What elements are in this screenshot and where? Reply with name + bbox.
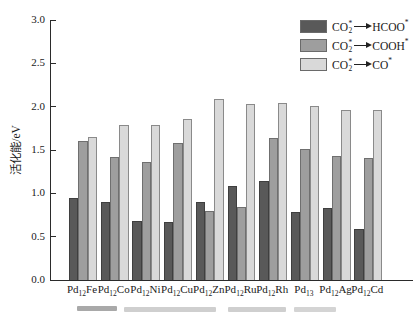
clipped-caption-fragment bbox=[294, 307, 336, 312]
legend-label: CO*2HCOO* bbox=[332, 20, 409, 33]
clipped-caption-fragment bbox=[77, 306, 117, 311]
bar-light-Pd12Zn bbox=[214, 99, 223, 280]
bar-dark-Pd12Cu bbox=[164, 222, 173, 280]
bar-dark-Pd12Zn bbox=[196, 202, 205, 280]
x-label-Pd12Co: Pd12Co bbox=[98, 283, 130, 298]
bar-dark-Pd12Ru bbox=[228, 186, 237, 280]
bar-medium-Pd12Ru bbox=[237, 207, 246, 280]
bar-medium-Pd12Fe bbox=[78, 141, 87, 280]
y-tick-mark bbox=[51, 106, 56, 107]
bar-dark-Pd12Ni bbox=[132, 221, 141, 280]
bar-light-Pd12Rh bbox=[278, 103, 287, 280]
y-tick-label: 0.5 bbox=[13, 230, 45, 243]
bar-medium-Pd12Co bbox=[110, 157, 119, 280]
bar-group-Pd12Co bbox=[101, 20, 129, 280]
x-label-Pd12Cd: Pd12Cd bbox=[351, 283, 383, 298]
bar-light-Pd13 bbox=[310, 106, 319, 280]
legend-swatch-light bbox=[300, 58, 327, 71]
y-tick-mark bbox=[51, 150, 56, 151]
legend-row-hcoo: CO*2HCOO* bbox=[300, 17, 409, 36]
bar-medium-Pd12Rh bbox=[269, 138, 278, 280]
x-label-Pd12Zn: Pd12Zn bbox=[193, 283, 224, 298]
reaction-arrow-icon bbox=[354, 60, 372, 69]
legend-row-co: CO*2CO* bbox=[300, 55, 409, 74]
x-label-Pd12Ni: Pd12Ni bbox=[130, 283, 160, 298]
x-label-Pd13: Pd13 bbox=[294, 283, 313, 298]
y-tick-label: 1.0 bbox=[13, 186, 45, 199]
y-tick-mark bbox=[51, 20, 56, 21]
y-tick-mark bbox=[51, 236, 56, 237]
x-label-Pd12Fe: Pd12Fe bbox=[67, 283, 97, 298]
bar-dark-Pd12Co bbox=[101, 202, 110, 280]
x-label-Pd12Ru: Pd12Ru bbox=[225, 283, 257, 298]
y-tick-mark bbox=[51, 193, 56, 194]
bar-group-Pd12Ni bbox=[132, 20, 160, 280]
x-label-Pd12Cu: Pd12Cu bbox=[161, 283, 193, 298]
y-tick-label: 1.5 bbox=[13, 143, 45, 156]
bar-light-Pd12Co bbox=[119, 125, 128, 280]
bar-medium-Pd12Ag bbox=[332, 156, 341, 280]
y-tick-label: 3.0 bbox=[13, 13, 45, 26]
bar-group-Pd12Rh bbox=[259, 20, 287, 280]
legend-label: CO*2COOH* bbox=[332, 39, 409, 52]
y-tick-label: 2.0 bbox=[13, 100, 45, 113]
y-tick-label: 0.0 bbox=[13, 273, 45, 286]
bar-light-Pd12Ag bbox=[341, 110, 350, 280]
legend-label: CO*2CO* bbox=[332, 58, 392, 71]
bar-medium-Pd13 bbox=[300, 149, 309, 280]
bar-light-Pd12Cu bbox=[183, 119, 192, 280]
y-tick-mark bbox=[51, 63, 56, 64]
bar-light-Pd12Cd bbox=[373, 110, 382, 280]
bar-light-Pd12Ni bbox=[151, 125, 160, 280]
legend: CO*2HCOO*CO*2COOH*CO*2CO* bbox=[300, 17, 409, 74]
y-tick-label: 2.5 bbox=[13, 56, 45, 69]
bar-medium-Pd12Zn bbox=[205, 211, 214, 280]
bar-medium-Pd12Cd bbox=[364, 158, 373, 280]
legend-swatch-dark bbox=[300, 20, 327, 33]
legend-row-cooh: CO*2COOH* bbox=[300, 36, 409, 55]
bar-light-Pd12Fe bbox=[88, 137, 97, 280]
bar-medium-Pd12Cu bbox=[173, 143, 182, 280]
bar-dark-Pd12Cd bbox=[354, 229, 363, 280]
reaction-arrow-icon bbox=[354, 22, 372, 31]
clipped-caption-fragment bbox=[228, 307, 286, 312]
activation-energy-bar-chart: 活化能/eV 0.00.51.01.52.02.53.0 Pd12FePd12C… bbox=[0, 0, 416, 312]
bar-dark-Pd12Fe bbox=[69, 198, 78, 280]
bar-dark-Pd12Rh bbox=[259, 181, 268, 280]
bar-dark-Pd13 bbox=[291, 212, 300, 280]
bar-dark-Pd12Ag bbox=[323, 208, 332, 280]
bar-group-Pd12Fe bbox=[69, 20, 97, 280]
x-label-Pd12Rh: Pd12Rh bbox=[256, 283, 288, 298]
bar-medium-Pd12Ni bbox=[142, 162, 151, 280]
x-label-Pd12Ag: Pd12Ag bbox=[319, 283, 352, 298]
bar-light-Pd12Ru bbox=[246, 104, 255, 280]
bar-group-Pd12Ru bbox=[228, 20, 256, 280]
bar-group-Pd12Cu bbox=[164, 20, 192, 280]
clipped-caption-fragment bbox=[124, 307, 216, 312]
legend-swatch-medium bbox=[300, 39, 327, 52]
reaction-arrow-icon bbox=[354, 41, 372, 50]
bar-group-Pd12Zn bbox=[196, 20, 224, 280]
